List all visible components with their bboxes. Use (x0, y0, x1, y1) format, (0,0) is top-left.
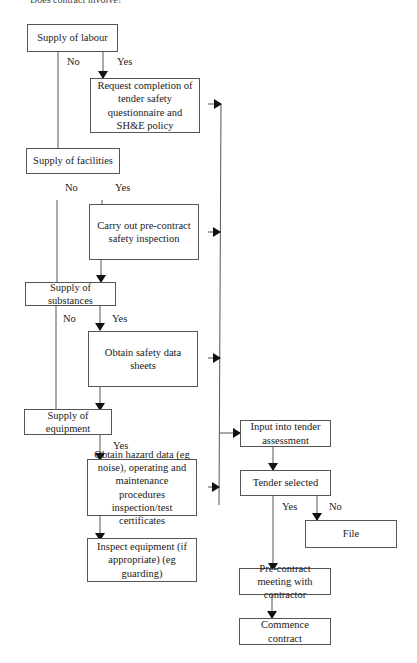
node-label: Pre-contract meeting with contractor (244, 562, 326, 601)
connector-lines (0, 0, 417, 663)
node-inspect-equipment: Inspect equipment (if appropriate) (eg g… (87, 538, 197, 582)
node-obtain-hazard-data: Obtain hazard data (eg noise), operating… (87, 459, 197, 516)
label-no-labour: No (67, 56, 80, 67)
node-label: Obtain safety data sheets (93, 346, 193, 372)
node-commence-contract: Commence contract (239, 618, 331, 645)
label-yes-tender: Yes (282, 501, 297, 512)
node-label: Supply of facilities (33, 154, 113, 167)
node-label: Input into tender assessment (245, 420, 326, 446)
node-request-questionnaire: Request completion of tender safety ques… (90, 78, 200, 133)
node-supply-of-facilities: Supply of facilities (26, 148, 120, 174)
node-safety-inspection: Carry out pre-contract safety inspection (89, 204, 199, 260)
node-tender-selected: Tender selected (240, 470, 331, 496)
node-label: Obtain hazard data (eg noise), operating… (92, 448, 192, 527)
node-file: File (305, 520, 397, 548)
node-label: Inspect equipment (if appropriate) (eg g… (92, 540, 192, 579)
label-yes-labour: Yes (117, 56, 132, 67)
node-label: Tender selected (253, 476, 318, 489)
node-supply-of-equipment: Supply of equipment (24, 409, 112, 435)
node-label: File (343, 527, 359, 540)
node-label: Commence contract (244, 618, 326, 644)
node-input-tender-assessment: Input into tender assessment (240, 420, 331, 447)
node-label: Supply of labour (37, 31, 108, 44)
node-supply-of-labour: Supply of labour (27, 24, 118, 52)
label-yes-equipment: Yes (113, 440, 128, 451)
label-no-tender: No (329, 501, 342, 512)
node-pre-contract-meeting: Pre-contract meeting with contractor (239, 568, 331, 595)
node-label: Supply of substances (30, 281, 111, 307)
label-yes-substances: Yes (112, 313, 127, 324)
label-yes-facilities: Yes (115, 182, 130, 193)
label-no-substances: No (63, 313, 76, 324)
node-label: Supply of equipment (29, 409, 107, 435)
node-label: Carry out pre-contract safety inspection (94, 219, 194, 245)
node-label: Request completion of tender safety ques… (95, 79, 195, 132)
node-supply-of-substances: Supply of substances (25, 282, 116, 306)
node-safety-data-sheets: Obtain safety data sheets (88, 331, 198, 387)
label-no-facilities: No (65, 182, 78, 193)
